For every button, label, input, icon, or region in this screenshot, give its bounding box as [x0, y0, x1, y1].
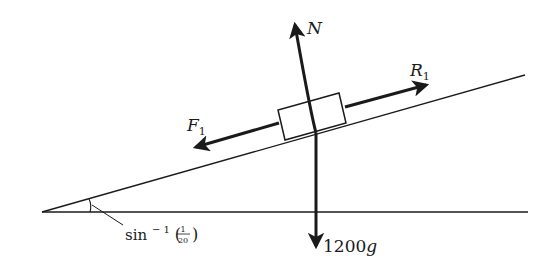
angle-arc — [89, 199, 91, 212]
inclined-plane-line — [42, 75, 525, 212]
normal-force-label: N — [306, 18, 323, 38]
angle-label: sin − 1 ( — [125, 219, 181, 244]
friction-force-arrow — [196, 123, 279, 147]
angle-superscript: − 1 — [152, 224, 170, 235]
friction-force-label: F1 — [186, 115, 206, 138]
resistance-force-arrow — [345, 85, 426, 107]
angle-leader-line — [92, 205, 123, 225]
force-diagram: sin − 1 ( 1 20 ) F1 R1 N 1200g — [0, 0, 556, 269]
angle-sin: sin — [125, 226, 147, 244]
angle-close-paren: ) — [192, 225, 198, 244]
angle-fraction-denominator: 20 — [178, 236, 188, 245]
resistance-force-label: R1 — [409, 60, 430, 83]
angle-fraction-numerator: 1 — [180, 225, 185, 234]
weight-force-label: 1200g — [323, 236, 377, 256]
